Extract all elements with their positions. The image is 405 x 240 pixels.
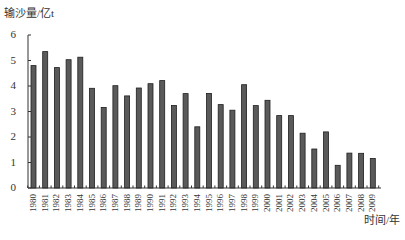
bar-2005 (324, 132, 329, 188)
x-tick-label: 1999 (251, 194, 260, 212)
x-tick-label: 1988 (123, 194, 132, 212)
bar-1999 (253, 106, 258, 188)
x-tick-label: 1991 (158, 194, 167, 212)
x-tick-label: 1997 (228, 194, 237, 212)
x-tick-label: 1986 (99, 194, 108, 212)
x-tick-label: 2000 (263, 194, 272, 212)
bar-2008 (359, 153, 364, 188)
x-tick-label: 2007 (345, 194, 354, 212)
x-tick-label: 2001 (275, 194, 284, 212)
y-tick-label: 0 (4, 182, 16, 193)
bar-2004 (312, 149, 317, 188)
bar-2007 (347, 153, 352, 188)
x-tick-label: 2008 (357, 194, 366, 212)
bar-1989 (136, 88, 141, 188)
x-tick-label: 1994 (193, 194, 202, 212)
x-tick-label: 1984 (76, 194, 85, 212)
bar-2002 (288, 116, 293, 188)
x-tick-label: 2009 (368, 194, 377, 212)
bar-1992 (171, 105, 176, 188)
x-tick-label: 1989 (134, 194, 143, 212)
bar-2009 (370, 158, 375, 188)
y-tick-label: 3 (4, 106, 16, 117)
bar-1996 (218, 105, 223, 188)
x-tick-label: 1995 (205, 194, 214, 212)
x-tick-label: 2006 (333, 194, 342, 212)
x-tick-label: 1981 (41, 194, 50, 212)
bar-1981 (43, 52, 48, 188)
x-tick-label: 1983 (64, 194, 73, 212)
x-tick-label: 1990 (146, 194, 155, 212)
x-tick-label: 2003 (298, 194, 307, 212)
x-tick-label: 2005 (322, 194, 331, 212)
bar-1994 (195, 127, 200, 188)
bar-2006 (335, 165, 340, 188)
bar-1985 (90, 88, 95, 188)
x-tick-label: 1980 (29, 194, 38, 212)
x-tick-label: 1998 (240, 194, 249, 212)
x-tick-label: 1982 (52, 194, 61, 212)
y-tick-label: 5 (4, 55, 16, 66)
bar-1993 (183, 94, 188, 188)
y-tick-label: 2 (4, 131, 16, 142)
bar-2001 (277, 116, 282, 188)
y-tick-label: 4 (4, 80, 16, 91)
y-tick-label: 6 (4, 29, 16, 40)
bar-2003 (300, 133, 305, 188)
bar-1984 (78, 57, 83, 188)
x-tick-label: 1987 (111, 194, 120, 212)
x-tick-label: 2002 (286, 194, 295, 212)
bar-1986 (101, 107, 106, 188)
x-tick-label: 2004 (310, 194, 319, 212)
x-tick-label: 1985 (88, 194, 97, 212)
bar-1983 (66, 60, 71, 188)
bar-series (31, 52, 375, 188)
bar-1997 (230, 110, 235, 188)
bar-1995 (207, 93, 212, 188)
x-tick-label: 1993 (181, 194, 190, 212)
bar-1980 (31, 66, 36, 188)
bar-1991 (160, 81, 165, 188)
bar-1998 (242, 85, 247, 188)
bar-1988 (125, 96, 130, 188)
bar-1987 (113, 86, 118, 188)
x-tick-label: 1996 (216, 194, 225, 212)
bar-1982 (54, 68, 59, 188)
y-tick-label: 1 (4, 157, 16, 168)
bar-1990 (148, 84, 153, 188)
x-tick-label: 1992 (169, 194, 178, 212)
bar-2000 (265, 100, 270, 188)
